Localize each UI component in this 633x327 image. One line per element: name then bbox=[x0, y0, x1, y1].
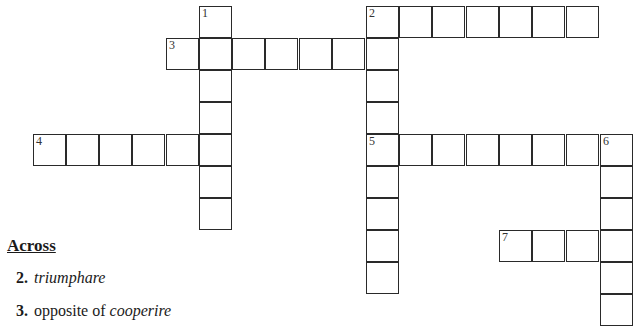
clues-section: Across bbox=[7, 236, 56, 256]
crossword-cell[interactable] bbox=[199, 166, 232, 198]
crossword-cell[interactable] bbox=[232, 38, 265, 70]
crossword-cell[interactable] bbox=[499, 134, 532, 166]
crossword-cell[interactable]: 6 bbox=[600, 134, 633, 166]
crossword-cell[interactable] bbox=[366, 38, 399, 70]
clue-number-label: 3 bbox=[169, 39, 175, 52]
crossword-cell[interactable] bbox=[265, 38, 298, 70]
clue-text-italic: cooperire bbox=[110, 302, 172, 319]
crossword-cell[interactable] bbox=[199, 38, 232, 70]
crossword-cell[interactable] bbox=[466, 6, 499, 38]
crossword-cell[interactable] bbox=[499, 6, 532, 38]
crossword-cell[interactable] bbox=[466, 134, 499, 166]
crossword-cell[interactable] bbox=[600, 166, 633, 198]
crossword-cell[interactable] bbox=[366, 70, 399, 102]
crossword-cell[interactable] bbox=[132, 134, 165, 166]
crossword-cell[interactable] bbox=[399, 6, 432, 38]
crossword-cell[interactable]: 1 bbox=[199, 6, 232, 38]
crossword-cell[interactable] bbox=[199, 134, 232, 166]
crossword-cell[interactable] bbox=[299, 38, 332, 70]
crossword-cell[interactable] bbox=[432, 6, 465, 38]
crossword-cell[interactable] bbox=[566, 134, 599, 166]
crossword-cell[interactable] bbox=[199, 198, 232, 230]
clue-across-2: 2.triumphare bbox=[16, 269, 105, 287]
crossword-cell[interactable] bbox=[166, 134, 199, 166]
crossword-cell[interactable] bbox=[532, 230, 565, 262]
crossword-cell[interactable] bbox=[366, 102, 399, 134]
crossword-cell[interactable] bbox=[566, 230, 599, 262]
crossword-cell[interactable] bbox=[600, 230, 633, 262]
crossword-cell[interactable] bbox=[99, 134, 132, 166]
crossword-cell[interactable]: 4 bbox=[33, 134, 66, 166]
crossword-cell[interactable]: 3 bbox=[166, 38, 199, 70]
crossword-cell[interactable] bbox=[366, 262, 399, 294]
crossword-cell[interactable] bbox=[199, 70, 232, 102]
crossword-cell[interactable] bbox=[199, 102, 232, 134]
crossword-cell[interactable] bbox=[532, 6, 565, 38]
crossword-cell[interactable] bbox=[600, 294, 633, 326]
clue-number-label: 7 bbox=[502, 231, 508, 244]
clue-number-label: 5 bbox=[369, 135, 375, 148]
crossword-cell[interactable] bbox=[332, 38, 365, 70]
clue-number-label: 1 bbox=[202, 7, 208, 20]
crossword-cell[interactable] bbox=[366, 166, 399, 198]
crossword-cell[interactable] bbox=[600, 198, 633, 230]
crossword-cell[interactable] bbox=[566, 6, 599, 38]
crossword-cell[interactable] bbox=[366, 198, 399, 230]
crossword-cell[interactable] bbox=[600, 262, 633, 294]
crossword-cell[interactable]: 7 bbox=[499, 230, 532, 262]
crossword-cell[interactable] bbox=[532, 134, 565, 166]
clue-text: triumphare bbox=[34, 269, 105, 286]
clue-number-label: 4 bbox=[36, 135, 42, 148]
crossword-cell[interactable] bbox=[399, 134, 432, 166]
crossword-cell[interactable] bbox=[432, 134, 465, 166]
clue-across-3: 3.opposite of cooperire bbox=[16, 302, 171, 320]
clue-number-label: 2 bbox=[369, 7, 375, 20]
clue-number-label: 6 bbox=[603, 135, 609, 148]
clue-number: 2. bbox=[16, 269, 28, 286]
clue-text: opposite of bbox=[34, 302, 110, 319]
crossword-cell[interactable] bbox=[366, 230, 399, 262]
crossword-cell[interactable]: 5 bbox=[366, 134, 399, 166]
crossword-cell[interactable]: 2 bbox=[366, 6, 399, 38]
clue-number: 3. bbox=[16, 302, 28, 319]
across-heading: Across bbox=[7, 236, 56, 256]
crossword-cell[interactable] bbox=[66, 134, 99, 166]
